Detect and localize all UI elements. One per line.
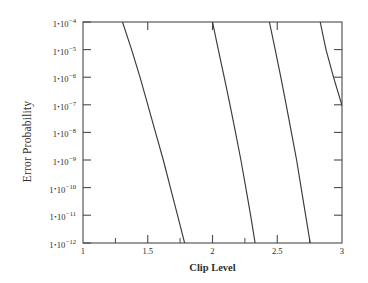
plot-area bbox=[0, 0, 368, 283]
plot-frame bbox=[83, 22, 342, 243]
chart-figure: Error Probability Clip Level 1•10−4 1•10… bbox=[0, 0, 368, 283]
